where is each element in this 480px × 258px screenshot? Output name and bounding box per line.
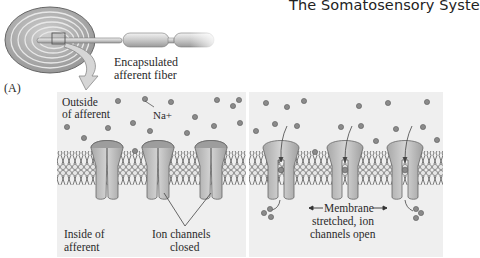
outside-label-line2: of afferent	[62, 108, 110, 121]
channels-closed-line2: closed	[170, 241, 199, 254]
page-header-title: The Somatosensory Syste	[289, 0, 480, 13]
membrane-stretched-line3: channels open	[310, 228, 375, 241]
pacinian-corpuscle-illustration	[5, 7, 220, 90]
outside-label-line1: Outside	[62, 96, 98, 109]
inside-label-line1: Inside of	[64, 228, 105, 241]
channels-closed-line1: Ion channels	[152, 228, 210, 241]
fiber-label-line1: Encapsulated	[114, 56, 178, 69]
inside-label-line2: afferent	[64, 241, 100, 254]
membrane-stretched-line2: stretched, ion	[312, 215, 374, 228]
membrane-stretched-line1: Membrane	[324, 202, 374, 215]
sodium-ion-label: Na+	[153, 109, 172, 122]
fiber-label-line2: afferent fiber	[114, 69, 177, 82]
panel-letter-a: (A)	[4, 82, 21, 95]
